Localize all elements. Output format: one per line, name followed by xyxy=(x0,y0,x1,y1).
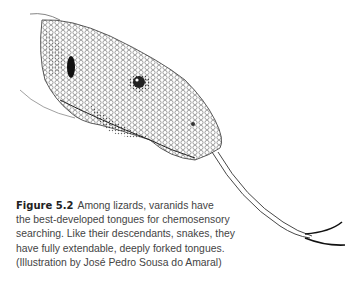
caption-line-4: have fully extendable, deeply forked ton… xyxy=(16,242,276,256)
caption-line-2: the best-developed tongues for chemosens… xyxy=(16,213,276,227)
ear-opening xyxy=(67,56,75,78)
caption-credit: (Illustration by José Pedro Sousa do Ama… xyxy=(16,256,276,270)
caption-line-3: searching. Like their descendants, snake… xyxy=(16,227,276,241)
caption-line-1: Figure 5.2Among lizards, varanids have xyxy=(16,199,276,213)
figure-caption: Figure 5.2Among lizards, varanids have t… xyxy=(16,199,276,270)
eye xyxy=(133,76,145,88)
figure-label: Figure 5.2 xyxy=(16,200,73,211)
